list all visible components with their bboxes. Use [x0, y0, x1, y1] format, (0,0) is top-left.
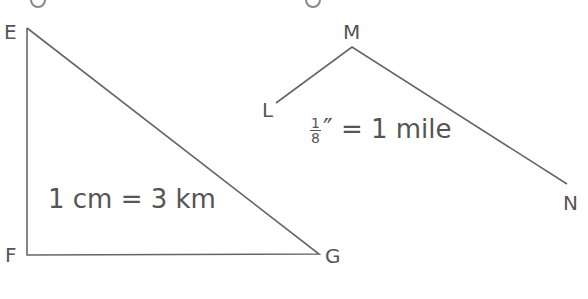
vertex-label-f: F — [5, 245, 17, 265]
vertex-label-e: E — [4, 22, 17, 42]
vertex-label-l: L — [262, 100, 273, 120]
vertex-label-g: G — [325, 246, 341, 266]
scale-text-path: 1 8 ″ = 1 mile — [310, 116, 452, 145]
vertex-label-m: M — [343, 22, 360, 42]
diagram-canvas — [0, 0, 588, 299]
vertex-label-n: N — [563, 193, 578, 213]
scale-text-triangle: 1 cm = 3 km — [48, 186, 216, 212]
inch-symbol: ″ — [323, 114, 333, 144]
fraction-denominator: 8 — [310, 131, 321, 145]
fraction-numerator: 1 — [310, 116, 321, 131]
scale-fraction: 1 8 — [310, 116, 321, 145]
triangle-efg — [27, 28, 319, 255]
scale-equivalence: = 1 mile — [333, 114, 452, 144]
